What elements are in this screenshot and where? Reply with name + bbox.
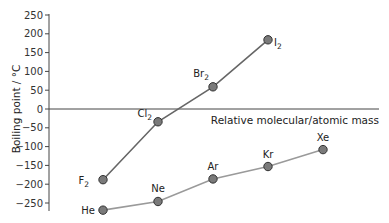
y-tick-label: 50 (30, 85, 43, 96)
series-halogens: F2Cl2Br2I2 (78, 36, 282, 189)
point-label: Cl2 (137, 108, 152, 122)
y-tick-label: −150 (16, 160, 43, 171)
point-label: Kr (263, 149, 275, 160)
y-tick-label: −50 (22, 122, 43, 133)
series-line (103, 40, 268, 180)
y-tick-label: 150 (24, 47, 43, 58)
y-tick-label: −200 (16, 179, 43, 190)
data-point (209, 83, 217, 91)
y-tick-label: 0 (37, 104, 43, 115)
y-tick-label: 200 (24, 28, 43, 39)
point-label: Ne (151, 183, 165, 194)
data-point (264, 162, 272, 170)
axes: 250200150100500−50−100−150−200−250Boilin… (10, 10, 379, 212)
boiling-point-chart: 250200150100500−50−100−150−200−250Boilin… (0, 0, 389, 223)
data-point (154, 118, 162, 126)
point-label: Ar (208, 161, 220, 172)
data-point (319, 145, 327, 153)
data-point (99, 206, 107, 214)
x-axis-title: Relative molecular/atomic mass (211, 114, 379, 126)
point-label: F2 (78, 175, 89, 189)
y-tick-label: 100 (24, 66, 43, 77)
point-label: I2 (274, 37, 282, 51)
point-label: He (81, 205, 95, 216)
y-tick-label: −250 (16, 198, 43, 209)
y-axis-title: Boiling point / °C (10, 65, 22, 154)
data-point (154, 197, 162, 205)
series-noble-gases: HeNeArKrXe (81, 132, 329, 217)
data-point (209, 175, 217, 183)
point-label: Br2 (193, 68, 209, 82)
point-label: Xe (317, 132, 330, 143)
y-tick-label: 250 (24, 10, 43, 21)
data-point (264, 36, 272, 44)
data-point (99, 175, 107, 183)
